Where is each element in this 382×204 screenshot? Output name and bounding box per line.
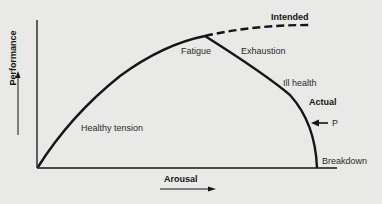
intended-curve: [205, 25, 310, 36]
performance-arousal-diagram: Performance Arousal Intended Fatigue Exh…: [0, 0, 382, 204]
p-marker-arrow-icon: [311, 120, 319, 127]
ill-health-label: Ill health: [283, 78, 317, 88]
rising-performance-curve: [38, 36, 205, 167]
y-axis-label: Performance: [8, 28, 18, 88]
arousal-arrow-icon: [208, 187, 216, 192]
breakdown-label: Breakdown: [322, 156, 367, 166]
actual-label: Actual: [309, 97, 337, 107]
x-axis-label: Arousal: [164, 174, 198, 184]
exhaustion-label: Exhaustion: [241, 46, 286, 56]
intended-label: Intended: [271, 12, 309, 22]
healthy-tension-label: Healthy tension: [81, 123, 143, 133]
fatigue-label: Fatigue: [181, 46, 211, 56]
p-marker-label: P: [332, 118, 338, 128]
